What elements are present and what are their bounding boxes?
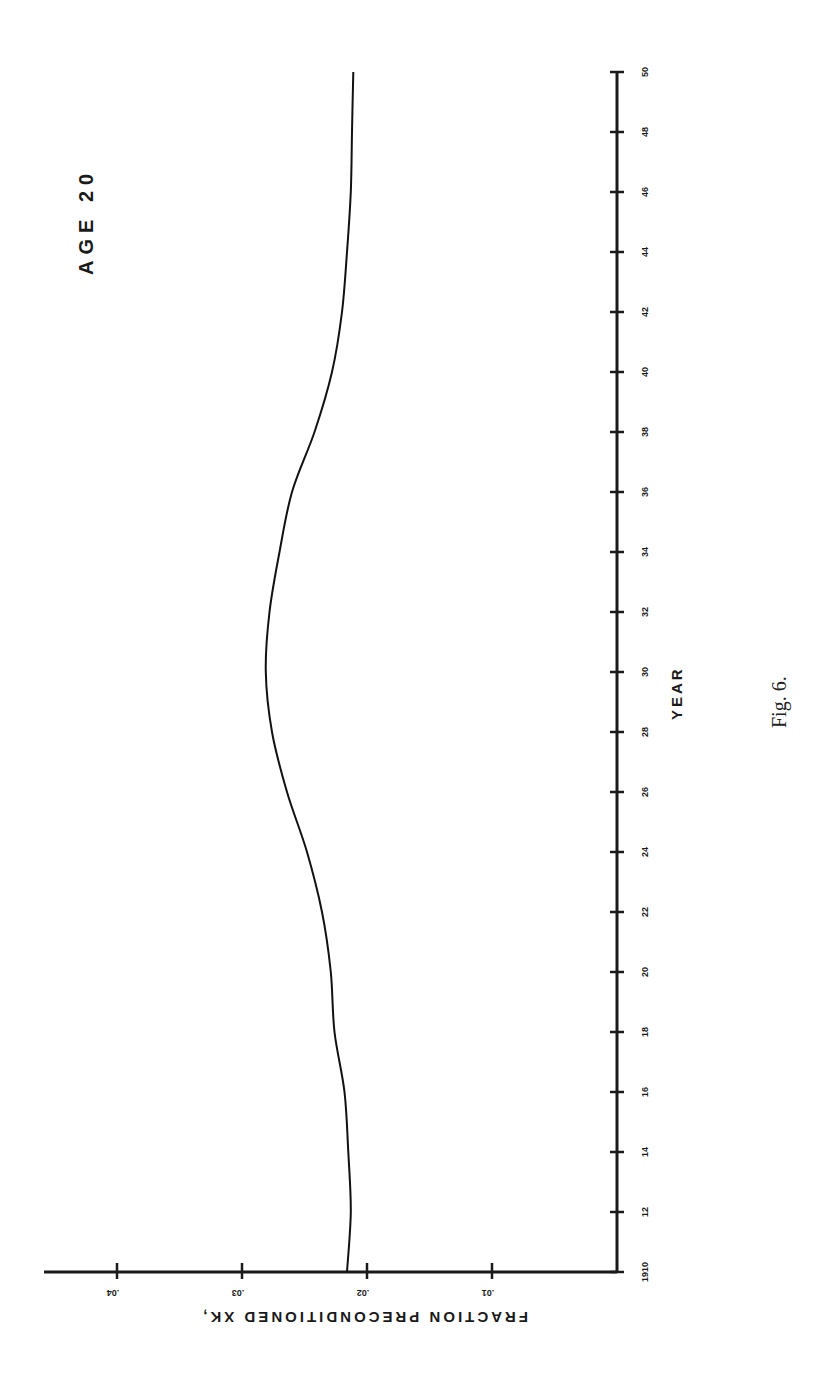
year-tick-label: 46: [640, 187, 650, 197]
rotated-line-chart: 1910121416182022242628303234363840424446…: [0, 0, 836, 1384]
axes: [44, 72, 617, 1272]
year-tick-label: 32: [640, 607, 650, 617]
year-tick-label: 26: [640, 787, 650, 797]
year-tick-label: 18: [640, 1027, 650, 1037]
fraction-tick-label: .03: [232, 1288, 245, 1298]
year-tick-label: 22: [640, 907, 650, 917]
year-tick-label: 42: [640, 307, 650, 317]
year-tick-label: 14: [640, 1147, 650, 1157]
fraction-ticks: .01.02.03.04: [107, 1263, 495, 1298]
chart-title: AGE 20: [75, 168, 97, 275]
year-tick-label: 16: [640, 1087, 650, 1097]
year-tick-label: 1910: [640, 1262, 650, 1282]
year-tick-label: 40: [640, 367, 650, 377]
year-tick-label: 30: [640, 667, 650, 677]
year-tick-label: 12: [640, 1207, 650, 1217]
x-axis-title: YEAR: [668, 666, 685, 720]
year-tick-label: 50: [640, 67, 650, 77]
year-tick-label: 36: [640, 487, 650, 497]
year-tick-label: 24: [640, 847, 650, 857]
fraction-tick-label: .01: [482, 1288, 495, 1298]
data-line-age-20: [266, 72, 354, 1272]
year-tick-label: 48: [640, 127, 650, 137]
year-tick-label: 28: [640, 727, 650, 737]
year-tick-label: 34: [640, 547, 650, 557]
year-tick-label: 44: [640, 247, 650, 257]
year-tick-label: 20: [640, 967, 650, 977]
year-tick-label: 38: [640, 427, 650, 437]
fraction-tick-label: .02: [357, 1288, 370, 1298]
fraction-tick-label: .04: [107, 1288, 120, 1298]
y-axis-title: FRACTION PRECONDITIONED XK,: [200, 1309, 528, 1326]
figure-caption: Fig. 6.: [768, 676, 791, 728]
